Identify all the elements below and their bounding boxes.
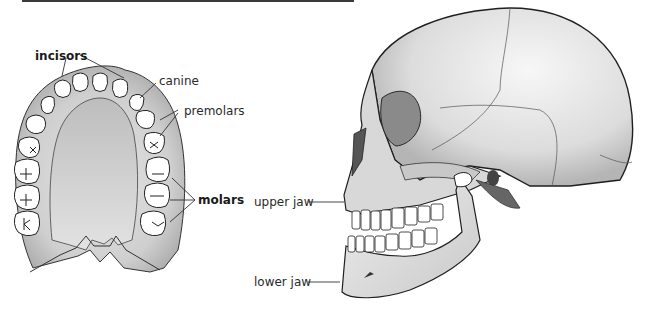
molar-left-2 [14, 185, 39, 210]
molar-left-3 [14, 211, 39, 236]
label-upper-jaw: upper jaw [254, 195, 313, 209]
molar-right-1 [146, 157, 170, 182]
label-incisors: incisors [35, 49, 87, 63]
premolar-right-2 [144, 132, 165, 153]
molar-left-1 [14, 159, 39, 184]
premolar-right-1 [136, 110, 155, 128]
molar-right-2 [144, 183, 169, 208]
label-premolars: premolars [184, 104, 245, 118]
canine-left [41, 96, 55, 113]
label-lower-jaw: lower jaw [254, 275, 311, 289]
label-molars: molars [198, 193, 244, 207]
anatomy-illustration [0, 0, 646, 314]
lower-teeth [348, 228, 437, 252]
premolar-left-1 [26, 115, 46, 134]
leader-lines-skull [308, 202, 344, 282]
skull [342, 8, 633, 298]
label-canine: canine [159, 74, 199, 88]
